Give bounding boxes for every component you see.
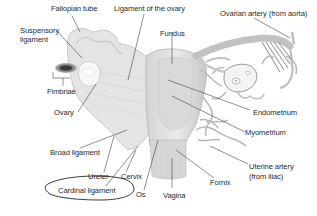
label-fornix: Fornix	[210, 178, 231, 187]
uterus-shape	[146, 49, 207, 179]
label-os: Os	[136, 190, 146, 199]
label-cardinal-ligament: Cardinal ligament	[58, 186, 115, 195]
label-fimbriae: Fimbriae	[47, 87, 76, 96]
label-myometrium: Myometrium	[245, 128, 286, 137]
label-ovarian-artery: Ovarian artery (from aorta)	[220, 9, 307, 18]
label-ligament-of-ovary: Ligament of the ovary	[114, 4, 185, 13]
label-ureter: Ureter	[88, 172, 109, 181]
label-suspensory-ligament-line2: ligament	[20, 35, 48, 44]
label-ovary: Ovary	[54, 108, 74, 117]
label-fundus: Fundus	[160, 29, 185, 38]
broad-ligament-shape	[67, 28, 150, 150]
label-endometrium: Endometrium	[253, 108, 297, 117]
label-fallopian-tube: Fallopian tube	[51, 4, 97, 13]
label-vagina: Vagina	[163, 191, 185, 200]
label-uterine-artery-line2: (from iliac)	[249, 172, 283, 181]
fimbriae-shape	[55, 63, 77, 73]
label-broad-ligament: Broad ligament	[50, 148, 100, 157]
label-suspensory-ligament-line1: Suspensory	[20, 26, 59, 35]
label-uterine-artery-line1: Uterine artery	[249, 162, 294, 171]
label-cervix: Cervix	[121, 172, 142, 181]
left-ovary-shape	[79, 62, 101, 87]
